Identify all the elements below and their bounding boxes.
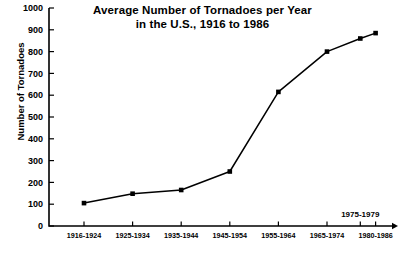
axis-lines <box>49 8 392 226</box>
svg-text:200: 200 <box>28 178 43 188</box>
svg-text:1975-1979: 1975-1979 <box>341 210 380 219</box>
svg-text:900: 900 <box>28 25 43 35</box>
svg-text:1000: 1000 <box>23 3 43 13</box>
plot-area: 01002003004005006007008009001000 1975-19… <box>0 0 400 256</box>
svg-text:100: 100 <box>28 199 43 209</box>
svg-text:400: 400 <box>28 134 43 144</box>
svg-text:1965-1974: 1965-1974 <box>310 231 344 240</box>
svg-text:700: 700 <box>28 69 43 79</box>
svg-text:1945-1954: 1945-1954 <box>213 231 247 240</box>
svg-text:1955-1964: 1955-1964 <box>261 231 295 240</box>
data-series-line <box>84 33 376 203</box>
svg-text:1925-1934: 1925-1934 <box>115 231 149 240</box>
svg-text:500: 500 <box>28 112 43 122</box>
svg-text:1980-1986: 1980-1986 <box>358 231 392 240</box>
svg-text:800: 800 <box>28 47 43 57</box>
chart-container: Average Number of Tornadoes per Year in … <box>0 0 400 256</box>
chart-annotations: 1975-1979 <box>341 210 380 219</box>
svg-text:0: 0 <box>38 221 43 231</box>
data-series-markers <box>82 31 378 206</box>
svg-text:600: 600 <box>28 90 43 100</box>
svg-text:300: 300 <box>28 156 43 166</box>
svg-text:1935-1944: 1935-1944 <box>164 231 198 240</box>
x-axis-tick-labels: 1916-19241925-19341935-19441945-19541955… <box>67 231 393 240</box>
svg-text:1916-1924: 1916-1924 <box>67 231 101 240</box>
